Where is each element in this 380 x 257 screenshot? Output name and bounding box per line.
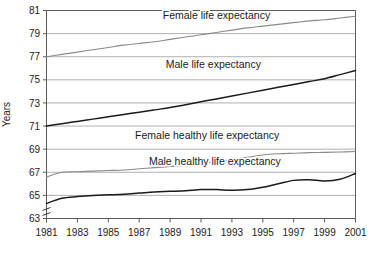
- plot-background: [47, 11, 356, 219]
- x-tick-label: 1989: [159, 227, 182, 238]
- series-label-2: Female healthy life expectancy: [135, 129, 280, 141]
- y-tick-label: 77: [29, 51, 41, 62]
- series-label-1: Male life expectancy: [166, 58, 262, 70]
- chart-container: 63656769717375777981 1981198319851987198…: [0, 0, 380, 257]
- x-tick-label: 1999: [313, 227, 336, 238]
- y-tick-label: 73: [29, 98, 41, 109]
- svg-text:Years: Years: [1, 102, 12, 127]
- x-tick-label: 1991: [190, 227, 213, 238]
- x-tick-label: 1995: [252, 227, 275, 238]
- x-tick-label: 1987: [128, 227, 151, 238]
- x-axis-tick-labels: 1981198319851987198919911993199519971999…: [35, 227, 367, 238]
- y-tick-label: 79: [29, 28, 41, 39]
- y-axis-title: Years: [1, 102, 12, 127]
- y-axis-tick-labels: 63656769717375777981: [29, 5, 41, 224]
- x-tick-label: 1983: [66, 227, 89, 238]
- y-tick-label: 81: [29, 5, 41, 16]
- x-tick-label: 1981: [35, 227, 58, 238]
- y-tick-label: 75: [29, 74, 41, 85]
- x-tick-label: 2001: [344, 227, 367, 238]
- y-axis-ticks: [43, 11, 47, 219]
- y-tick-label: 65: [29, 190, 41, 201]
- x-tick-label: 1997: [283, 227, 306, 238]
- series-label-3: Male healthy life expectancy: [149, 155, 282, 167]
- y-tick-label: 67: [29, 167, 41, 178]
- series-label-0: Female life expectancy: [163, 9, 271, 21]
- line-chart: 63656769717375777981 1981198319851987198…: [0, 0, 380, 257]
- x-tick-label: 1993: [221, 227, 244, 238]
- y-tick-label: 63: [29, 213, 41, 224]
- y-tick-label: 71: [29, 121, 41, 132]
- y-tick-label: 69: [29, 144, 41, 155]
- x-axis-ticks: [47, 219, 356, 223]
- x-tick-label: 1985: [97, 227, 120, 238]
